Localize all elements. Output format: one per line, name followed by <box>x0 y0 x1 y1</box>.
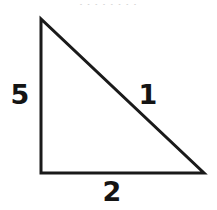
side-label-hypotenuse: 1 <box>133 81 163 108</box>
right-triangle-shape <box>41 19 204 173</box>
side-label-vertical: 5 <box>5 81 35 108</box>
side-label-base: 2 <box>97 178 127 205</box>
diagram-canvas: · · · · · · · · 5 1 2 <box>0 0 217 210</box>
